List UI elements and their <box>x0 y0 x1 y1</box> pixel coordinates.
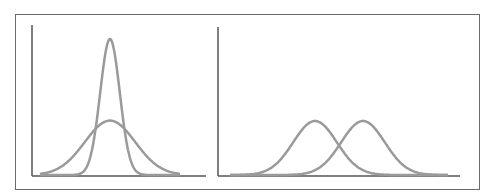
left-wide-curve <box>40 121 180 174</box>
right-left-curve <box>230 121 448 175</box>
figure-svg <box>0 0 489 195</box>
right-chart <box>218 27 460 176</box>
right-right-curve <box>230 121 448 175</box>
left-chart <box>32 25 206 176</box>
left-narrow-curve <box>40 39 180 175</box>
